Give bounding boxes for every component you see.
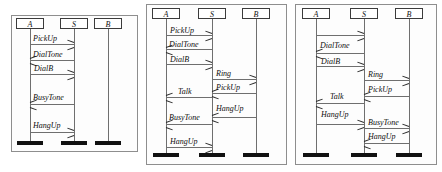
lifeline-foot-s-panel-3 bbox=[351, 153, 377, 157]
message-label-panel-3-8: BusyTone bbox=[368, 118, 399, 127]
lifeline-a-panel-1 bbox=[30, 29, 31, 141]
message-line-panel-3-3 bbox=[316, 66, 364, 67]
message-label-panel-3-2: DialTone bbox=[320, 41, 350, 50]
message-line-panel-1-2 bbox=[30, 60, 74, 61]
message-label-panel-2-4: Ring bbox=[216, 69, 231, 78]
message-label-panel-3-4: Ring bbox=[368, 70, 383, 79]
message-line-panel-2-5 bbox=[212, 93, 256, 94]
message-label-panel-3-7: HangUp bbox=[321, 110, 349, 119]
message-label-panel-2-3: DialB bbox=[170, 55, 189, 64]
lifeline-head-b-panel-2: B bbox=[242, 8, 270, 19]
lifeline-a-panel-3 bbox=[316, 19, 317, 153]
message-line-panel-3-6 bbox=[316, 103, 364, 104]
message-line-panel-3-2 bbox=[316, 53, 364, 54]
sequence-diagram-figure: ASBPickUpDialToneDialBBusyToneHangUpASBP… bbox=[0, 0, 442, 172]
lifeline-foot-b-panel-1 bbox=[95, 141, 121, 145]
message-label-panel-2-2: DialTone bbox=[169, 40, 199, 49]
lifeline-head-a-panel-1: A bbox=[16, 18, 44, 29]
lifeline-foot-s-panel-1 bbox=[61, 141, 87, 145]
lifeline-head-a-panel-2: A bbox=[152, 8, 180, 19]
message-line-panel-3-5 bbox=[364, 96, 409, 97]
message-line-panel-2-1 bbox=[166, 35, 212, 36]
message-label-panel-1-2: DialTone bbox=[33, 50, 63, 59]
message-line-panel-2-7 bbox=[212, 117, 256, 118]
lifeline-head-s-panel-1: S bbox=[60, 18, 88, 29]
lifeline-head-s-panel-2: S bbox=[198, 8, 226, 19]
lifeline-a-panel-2 bbox=[166, 19, 167, 153]
message-line-panel-1-1 bbox=[30, 44, 74, 45]
message-label-panel-2-9: HangUp bbox=[170, 137, 198, 146]
message-line-panel-2-6 bbox=[166, 97, 212, 98]
lifeline-head-b-panel-1: B bbox=[94, 18, 122, 29]
message-line-panel-3-4 bbox=[364, 80, 409, 81]
lifeline-head-b-panel-3: B bbox=[395, 8, 423, 19]
message-label-panel-1-4: BusyTone bbox=[33, 93, 64, 102]
message-label-panel-1-1: PickUp bbox=[33, 34, 57, 43]
lifeline-b-panel-3 bbox=[409, 19, 410, 153]
lifeline-s-panel-1 bbox=[74, 29, 75, 141]
message-line-panel-3-1 bbox=[316, 35, 364, 36]
lifeline-foot-b-panel-2 bbox=[243, 153, 269, 157]
message-label-panel-2-7: HangUp bbox=[216, 104, 244, 113]
lifeline-head-s-panel-3: S bbox=[350, 8, 378, 19]
message-line-panel-1-4 bbox=[30, 104, 74, 105]
message-line-panel-2-3 bbox=[166, 64, 212, 65]
lifeline-s-panel-2 bbox=[212, 19, 213, 153]
message-label-panel-3-5: PickUp bbox=[368, 85, 392, 94]
message-label-panel-2-1: PickUp bbox=[170, 26, 194, 35]
lifeline-foot-a-panel-2 bbox=[153, 153, 179, 157]
message-line-panel-2-4 bbox=[212, 79, 256, 80]
message-label-panel-3-6: Talk bbox=[330, 92, 344, 101]
lifeline-b-panel-1 bbox=[108, 29, 109, 141]
message-label-panel-3-3: DialB bbox=[321, 57, 340, 66]
lifeline-foot-a-panel-1 bbox=[17, 141, 43, 145]
message-label-panel-3-9: HangUp bbox=[368, 132, 396, 141]
lifeline-foot-a-panel-3 bbox=[303, 153, 329, 157]
message-line-panel-1-5 bbox=[30, 132, 74, 133]
message-line-panel-2-2 bbox=[166, 49, 212, 50]
message-line-panel-1-3 bbox=[30, 74, 74, 75]
message-label-panel-2-8: BusyTone bbox=[169, 113, 200, 122]
message-line-panel-3-9 bbox=[364, 143, 409, 144]
lifeline-foot-s-panel-2 bbox=[199, 153, 225, 157]
message-line-panel-3-8 bbox=[364, 128, 409, 129]
message-label-panel-1-5: HangUp bbox=[33, 121, 61, 130]
lifeline-foot-b-panel-3 bbox=[396, 153, 422, 157]
lifeline-s-panel-3 bbox=[364, 19, 365, 153]
message-line-panel-2-8 bbox=[166, 124, 212, 125]
message-line-panel-3-7 bbox=[316, 124, 364, 125]
message-label-panel-2-5: PickUp bbox=[216, 83, 240, 92]
message-label-panel-1-3: DialB bbox=[34, 64, 53, 73]
message-label-panel-2-6: Talk bbox=[178, 87, 192, 96]
lifeline-head-a-panel-3: A bbox=[302, 8, 330, 19]
lifeline-b-panel-2 bbox=[256, 19, 257, 153]
message-line-panel-2-9 bbox=[166, 147, 212, 148]
